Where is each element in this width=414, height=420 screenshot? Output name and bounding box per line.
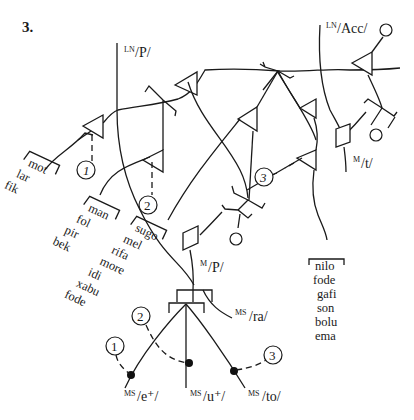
ln-acc-label: /Acc/ xyxy=(337,21,367,36)
triangle-center-right xyxy=(238,107,257,131)
list-d-item: gafi xyxy=(317,287,337,301)
circle-number-1-lower-label: 1 xyxy=(111,339,118,354)
list-d-item: ema xyxy=(315,329,336,343)
word-list-d: nilo fode gafi son bolu ema xyxy=(309,259,344,343)
list-d-item: bolu xyxy=(315,315,338,329)
line-cltri-to-list-b xyxy=(100,157,150,195)
dashed-3-lower xyxy=(236,360,266,370)
box-node-m-p xyxy=(183,226,198,250)
box-node-m-t xyxy=(336,124,350,147)
ms-ra-prefix: MS xyxy=(235,308,247,317)
circle-number-1-upper-label: 1 xyxy=(83,163,90,178)
word-list-a: mot lar fik xyxy=(3,148,60,208)
dot-u xyxy=(185,359,193,367)
top-horizontal-line xyxy=(78,68,400,140)
line-to-list-d xyxy=(313,170,327,240)
ln-acc-prefix: LN xyxy=(326,21,337,30)
circle-node-top xyxy=(380,24,392,36)
ms-u-label: /u⁺/ xyxy=(203,389,225,404)
ms-e-label: /e⁺/ xyxy=(137,389,158,404)
ms-e-prefix: MS xyxy=(124,389,136,398)
m-p-line xyxy=(190,250,193,290)
ms-ra-line xyxy=(203,290,232,318)
m-t-prefix: M xyxy=(353,155,360,164)
triangle-center-top xyxy=(175,72,197,95)
and-node-top-center xyxy=(260,62,316,140)
circle-number-3-lower-label: 3 xyxy=(269,348,276,363)
ln-p-prefix: LN xyxy=(124,45,135,54)
m-p-prefix: M xyxy=(200,259,207,268)
ln-p-label: /P/ xyxy=(135,45,151,60)
list-d-item: nilo xyxy=(315,259,334,273)
line-to-box-mp xyxy=(200,212,222,235)
line-rtri-to-ltri xyxy=(314,118,317,150)
circle-number-2-upper-label: 2 xyxy=(144,198,151,213)
and-node-lower-small xyxy=(222,205,252,228)
network-diagram: 3. LN /P/ LN /Acc/ M /t/ 3 2 xyxy=(0,0,414,420)
ms-to-label: /to/ xyxy=(262,389,281,404)
triangle-top-right xyxy=(352,52,372,75)
ms-u-prefix: MS xyxy=(190,389,202,398)
line-ctri-to-top xyxy=(257,71,278,107)
ln-acc-line xyxy=(319,25,344,140)
line-ctop-to-junction xyxy=(188,82,248,198)
ms-to-prefix: MS xyxy=(248,389,260,398)
figure-number: 3. xyxy=(22,19,34,35)
m-t-line xyxy=(344,147,346,172)
m-t-label: /t/ xyxy=(361,156,373,171)
triangle-center-left xyxy=(143,150,163,172)
circle-node-right xyxy=(370,129,382,141)
and-node-center xyxy=(145,86,176,150)
line-ctri-to-list-c xyxy=(168,119,240,220)
line-ctri-to-junction xyxy=(249,131,253,200)
circle-node-lower xyxy=(230,233,242,245)
ms-ra-label: /ra/ xyxy=(249,309,268,324)
dot-to xyxy=(230,367,238,375)
triangle-right-upper xyxy=(300,99,316,118)
list-d-item: son xyxy=(317,301,335,315)
dashed-1-lower xyxy=(116,355,130,374)
circle-number-3-upper-label: 3 xyxy=(259,170,267,185)
m-p-label: /P/ xyxy=(208,260,224,275)
list-d-item: fode xyxy=(313,273,336,287)
line-to-top-circle xyxy=(372,37,383,52)
circle-number-2-lower-label: 2 xyxy=(137,309,144,324)
